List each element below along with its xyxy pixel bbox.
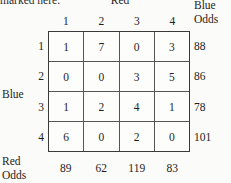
cell-r1c2: 7 xyxy=(84,32,119,61)
row-header-3: 3 xyxy=(26,92,44,122)
column-header-3: 3 xyxy=(119,14,155,29)
red-odds-heading-line1: Red xyxy=(2,155,26,169)
payoff-matrix-grid: 1 7 0 3 0 0 3 5 1 2 4 1 6 0 2 0 xyxy=(48,31,190,152)
cell-r4c3: 2 xyxy=(120,122,155,151)
cell-r3c2: 2 xyxy=(84,92,119,121)
cell-r3c1: 1 xyxy=(49,92,84,121)
table-row: 0 0 3 5 xyxy=(49,62,189,92)
cell-r1c3: 0 xyxy=(120,32,155,61)
cell-r2c2: 0 xyxy=(84,62,119,91)
red-odds-col-1: 89 xyxy=(48,160,84,176)
blue-odds-heading-line2: Odds xyxy=(194,13,231,27)
cell-r3c4: 1 xyxy=(155,92,189,121)
blue-odds-row-4: 101 xyxy=(194,122,231,152)
blue-odds-heading-line1: Blue xyxy=(194,0,231,13)
red-odds-col-4: 83 xyxy=(155,160,191,176)
column-header-1: 1 xyxy=(48,14,84,29)
cell-r2c3: 3 xyxy=(120,62,155,91)
red-odds-col-3: 119 xyxy=(119,160,155,176)
matrix-figure: marked here. Red Blue Odds 1 2 3 4 Blue … xyxy=(0,0,231,183)
column-headers: 1 2 3 4 xyxy=(48,14,190,29)
row-group-label-blue: Blue xyxy=(2,88,24,101)
cell-r4c4: 0 xyxy=(155,122,189,151)
column-header-4: 4 xyxy=(155,14,191,29)
blue-odds-row-3: 78 xyxy=(194,92,231,122)
table-row: 6 0 2 0 xyxy=(49,122,189,151)
cell-r4c1: 6 xyxy=(49,122,84,151)
cell-r1c1: 1 xyxy=(49,32,84,61)
red-odds-col-2: 62 xyxy=(84,160,120,176)
blue-odds-heading: Blue Odds xyxy=(194,0,231,26)
row-header-4: 4 xyxy=(26,122,44,152)
red-odds-heading: Red Odds xyxy=(2,155,26,182)
table-row: 1 2 4 1 xyxy=(49,92,189,122)
row-headers: 1 2 3 4 xyxy=(26,31,44,152)
row-header-1: 1 xyxy=(26,31,44,61)
red-odds-values: 89 62 119 83 xyxy=(48,160,190,176)
row-header-2: 2 xyxy=(26,61,44,91)
cell-r2c4: 5 xyxy=(155,62,189,91)
table-row: 1 7 0 3 xyxy=(49,32,189,62)
cell-r3c3: 4 xyxy=(120,92,155,121)
blue-odds-row-2: 86 xyxy=(194,61,231,91)
red-odds-heading-line2: Odds xyxy=(2,169,26,183)
column-group-label-red: Red xyxy=(100,0,140,7)
cell-r1c4: 3 xyxy=(155,32,189,61)
blue-odds-values: 88 86 78 101 xyxy=(194,31,231,152)
cutoff-running-text: marked here. xyxy=(0,0,95,7)
blue-odds-row-1: 88 xyxy=(194,31,231,61)
cell-r2c1: 0 xyxy=(49,62,84,91)
cell-r4c2: 0 xyxy=(84,122,119,151)
column-header-2: 2 xyxy=(84,14,120,29)
